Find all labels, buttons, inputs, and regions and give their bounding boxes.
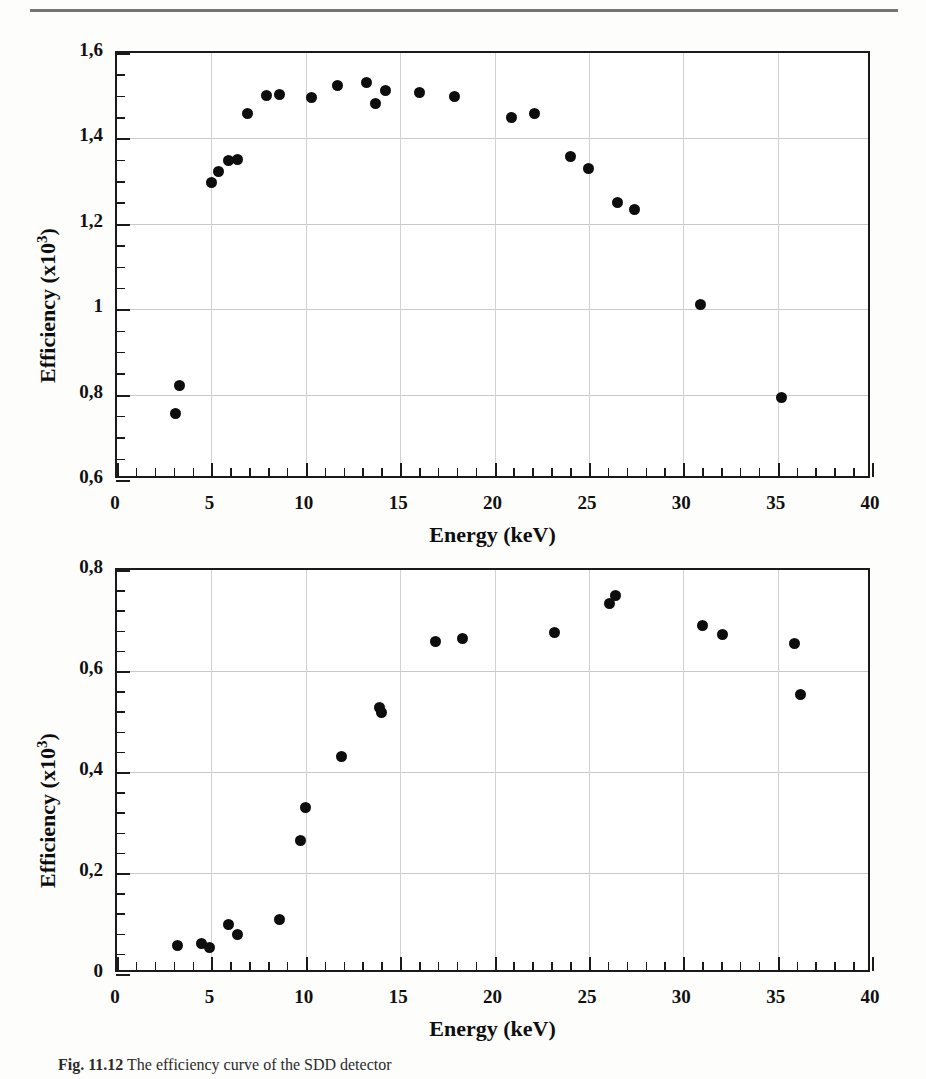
x-tick-minor	[608, 468, 610, 477]
x-tick-major	[400, 957, 402, 971]
scatter-point	[789, 638, 800, 649]
x-tick-minor	[193, 468, 195, 477]
y-axis-tick-label: 1,2	[79, 210, 103, 232]
y-tick-major	[116, 309, 130, 311]
x-tick-major	[211, 463, 213, 477]
x-axis-tick-label: 20	[483, 492, 502, 514]
gridline-vertical	[589, 570, 590, 970]
scatter-point	[629, 204, 640, 215]
x-tick-major	[117, 463, 119, 477]
x-tick-minor	[834, 962, 836, 971]
x-tick-minor	[287, 962, 289, 971]
scatter-point	[196, 938, 207, 949]
x-axis-tick-label: 30	[672, 986, 691, 1008]
scatter-point	[332, 80, 343, 91]
y-axis-title-top: Efficiency (x103)	[34, 228, 61, 383]
y-tick-minor	[116, 792, 125, 794]
x-tick-minor	[740, 962, 742, 971]
y-tick-minor	[116, 117, 125, 119]
y-tick-minor	[116, 913, 125, 915]
scatter-point	[204, 942, 215, 953]
scatter-point	[695, 299, 706, 310]
x-tick-minor	[797, 468, 799, 477]
x-axis-ticks-bottom	[117, 570, 868, 970]
figure-caption: Fig. 11.12 The efficiency curve of the S…	[58, 1056, 878, 1074]
x-axis-tick-label: 40	[861, 492, 880, 514]
gridline-horizontal	[117, 772, 868, 773]
scatter-point	[336, 751, 347, 762]
gridline-vertical	[306, 53, 307, 476]
y-axis-title-top-base: Efficiency (x10	[35, 243, 60, 383]
gridlines-bottom	[117, 570, 868, 970]
y-tick-minor	[116, 352, 125, 354]
y-tick-minor	[116, 245, 125, 247]
y-axis-tick-label: 0,4	[79, 758, 103, 780]
y-axis-title-bottom-base: Efficiency (x10	[35, 748, 60, 888]
x-axis-tick-label: 25	[577, 986, 596, 1008]
x-tick-minor	[646, 962, 648, 971]
plot-area-bottom[interactable]	[115, 568, 870, 972]
scatter-point	[274, 89, 285, 100]
x-tick-major	[495, 957, 497, 971]
x-tick-minor	[853, 962, 855, 971]
x-tick-minor	[344, 962, 346, 971]
gridline-vertical	[589, 53, 590, 476]
scatter-point	[232, 929, 243, 940]
y-tick-minor	[116, 651, 125, 653]
x-tick-minor	[457, 962, 459, 971]
scatter-point	[529, 108, 540, 119]
y-axis-tick-label: 0,8	[79, 381, 103, 403]
scatter-point	[506, 112, 517, 123]
chart-panel-top: Efficiency (x103) 0,60,811,21,41,6 05101…	[0, 28, 926, 536]
scatter-point	[295, 835, 306, 846]
scatter-point	[174, 380, 185, 391]
y-tick-minor	[116, 833, 125, 835]
x-axis-tick-label: 0	[110, 492, 120, 514]
x-tick-minor	[381, 468, 383, 477]
x-axis-title-bottom: Energy (keV)	[115, 1016, 870, 1042]
x-tick-major	[683, 463, 685, 477]
gridline-horizontal	[117, 309, 868, 310]
x-tick-minor	[797, 962, 799, 971]
y-tick-minor	[116, 853, 125, 855]
x-tick-major	[778, 957, 780, 971]
scatter-point	[361, 77, 372, 88]
y-tick-major	[116, 53, 130, 55]
y-tick-minor	[116, 288, 125, 290]
y-tick-minor	[116, 437, 125, 439]
y-tick-minor	[116, 752, 125, 754]
x-tick-minor	[702, 962, 704, 971]
y-axis-tick-label: 0,6	[79, 657, 103, 679]
scatter-point	[414, 87, 425, 98]
scatter-point	[172, 940, 183, 951]
plot-area-top[interactable]	[115, 51, 870, 478]
x-tick-minor	[344, 468, 346, 477]
x-tick-minor	[249, 468, 251, 477]
x-tick-minor	[513, 468, 515, 477]
scatter-point	[457, 633, 468, 644]
y-tick-minor	[116, 590, 125, 592]
x-tick-major	[683, 957, 685, 971]
y-tick-minor	[116, 610, 125, 612]
gridline-horizontal	[117, 224, 868, 225]
x-tick-minor	[136, 468, 138, 477]
scatter-point	[449, 91, 460, 102]
y-tick-minor	[116, 416, 125, 418]
scatter-point	[583, 163, 594, 174]
scatter-points-bottom	[117, 570, 868, 970]
y-axis-title-top-close: )	[35, 228, 60, 235]
gridline-vertical	[211, 53, 212, 476]
y-tick-minor	[116, 459, 125, 461]
gridline-vertical	[683, 570, 684, 970]
y-axis-ticks-bottom	[117, 570, 868, 970]
scatter-point	[242, 108, 253, 119]
y-tick-minor	[116, 202, 125, 204]
scatter-point	[610, 590, 621, 601]
gridline-vertical	[495, 570, 496, 970]
gridline-horizontal	[117, 138, 868, 139]
x-tick-minor	[721, 962, 723, 971]
y-tick-minor	[116, 812, 125, 814]
chart-panel-bottom: Efficiency (x103) 00,20,40,60,8 05101520…	[0, 548, 926, 1048]
scatter-point	[717, 629, 728, 640]
y-tick-minor	[116, 711, 125, 713]
